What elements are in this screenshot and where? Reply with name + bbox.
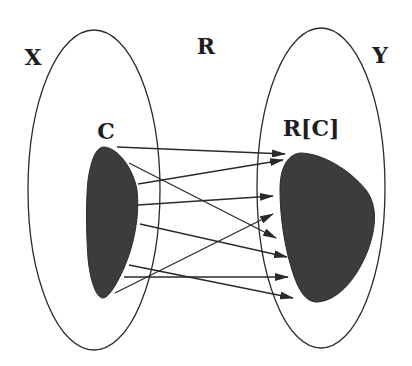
image-rc-label: R[C]	[283, 117, 340, 139]
relation-arrow	[117, 147, 285, 154]
relation-arrow	[115, 214, 273, 293]
subset-c-blob	[87, 147, 138, 298]
relation-diagram: X R Y C R[C]	[0, 0, 412, 366]
relation-arrows	[115, 147, 293, 298]
relation-arrow	[140, 224, 287, 257]
set-y-label: Y	[372, 44, 388, 66]
relation-label: R	[197, 35, 215, 57]
image-rc-blob	[280, 153, 375, 302]
set-x-label: X	[24, 46, 41, 68]
subset-c-label: C	[97, 120, 115, 142]
relation-arrow	[138, 196, 273, 205]
